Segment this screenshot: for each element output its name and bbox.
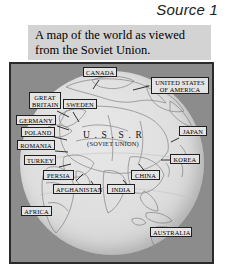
map-label-turkey: TURKEY [24,155,56,165]
ussr-name: U . S . S . R [68,129,158,140]
map-label-poland: POLAND [21,127,55,137]
united-states-line-1: UNITED STATES [154,79,206,86]
caption-box: A map of the world as viewed from the So… [28,25,211,60]
map-canvas: U . S . S . R (SOVIET UNION) CANADA UNIT… [11,64,212,262]
world-map-figure: U . S . S . R (SOVIET UNION) CANADA UNIT… [9,62,214,264]
map-label-afghanistan: AFGHANISTAN [53,184,101,194]
ussr-subtitle: (SOVIET UNION) [68,140,158,147]
great-britain-line-1: GREAT [32,94,58,101]
page-title: Source 1 [156,1,218,18]
map-label-united-states: UNITED STATES OF AMERICA [151,77,209,94]
caption-line-2: from the Soviet Union. [35,43,211,58]
great-britain-line-2: BRITAIN [32,101,58,108]
united-states-line-2: OF AMERICA [154,86,206,93]
map-label-persia: PERSIA [43,170,74,180]
map-label-canada: CANADA [83,67,117,77]
caption-line-1: A map of the world as viewed [35,28,211,43]
map-label-australia: AUSTRALIA [150,227,192,237]
map-label-japan: JAPAN [179,126,207,136]
map-label-great-britain: GREAT BRITAIN [29,92,61,109]
map-label-germany: GERMANY [16,115,56,125]
map-label-sweden: SWEDEN [63,99,97,109]
map-label-africa: AFRICA [21,206,52,216]
map-label-korea: KOREA [170,154,200,164]
map-label-china: CHINA [131,170,160,180]
map-label-romania: ROMANIA [17,140,55,150]
map-label-india: INDIA [107,184,135,194]
map-label-ussr: U . S . S . R (SOVIET UNION) [68,129,158,147]
